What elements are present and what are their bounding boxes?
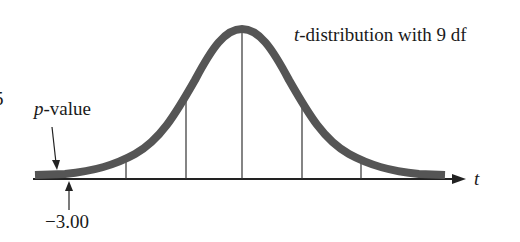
curve-label: t-distribution with 9 df [294, 24, 467, 46]
axis-label: t [474, 168, 479, 190]
pvalue-var: p [34, 98, 44, 119]
axis-arrow-icon [452, 174, 466, 184]
tick-arrow-icon [65, 181, 73, 191]
pvalue-text: -value [44, 98, 91, 119]
curve-label-text: -distribution with 9 df [299, 24, 466, 45]
ordinate-lines [126, 29, 361, 179]
density-curve [35, 29, 445, 175]
left-edge-fragment: 5 [0, 88, 4, 110]
pvalue-label: p-value [34, 98, 91, 120]
tick-value: −3.00 [45, 211, 89, 233]
pvalue-arrow-icon [52, 160, 60, 170]
